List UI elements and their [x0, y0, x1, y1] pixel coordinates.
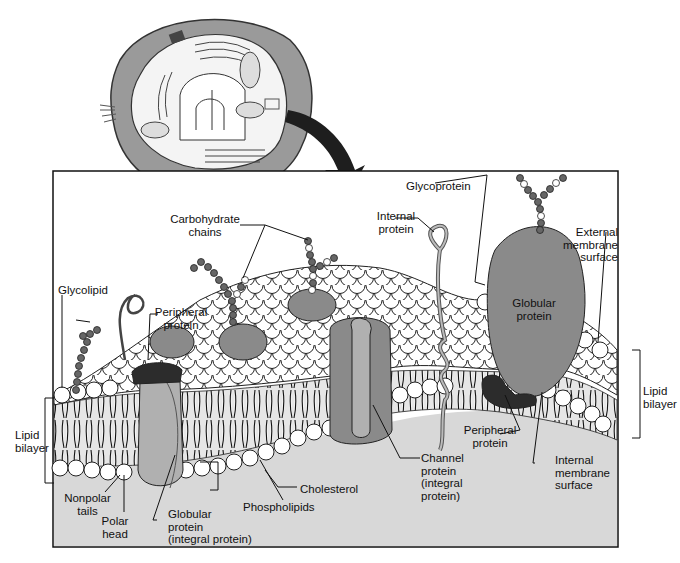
peripheral-protein-top-shape [132, 363, 182, 384]
label-phospholipids: Phospholipids [243, 501, 315, 514]
label-polar-head: Polar head [95, 515, 135, 540]
label-peripheral-protein-bottom: Peripheral protein [460, 424, 520, 449]
label-carbohydrate-chains: Carbohydrate chains [160, 213, 250, 238]
label-internal-membrane-surface: Internal membrane surface [555, 454, 610, 492]
label-globular-protein: Globular protein [511, 297, 557, 322]
label-lipid-bilayer-right: Lipid bilayer [643, 385, 677, 410]
cell-membrane-diagram: Carbohydrate chains Glycoprotein Interna… [0, 0, 680, 563]
label-lipid-bilayer-left: Lipid bilayer [15, 429, 49, 454]
label-glycolipid: Glycolipid [58, 284, 108, 297]
label-channel-protein: Channel protein (integral protein) [421, 452, 464, 502]
label-peripheral-protein-top: Peripheral protein [150, 306, 212, 331]
label-nonpolar-tails: Nonpolar tails [60, 492, 115, 517]
label-cholesterol: Cholesterol [300, 483, 358, 496]
label-external-membrane-surface: External membrane surface [560, 226, 618, 264]
label-glycoprotein: Glycoprotein [406, 180, 471, 193]
label-internal-protein: Internal protein [375, 210, 417, 235]
label-globular-protein-integral: Globular protein (integral protein) [168, 508, 252, 546]
